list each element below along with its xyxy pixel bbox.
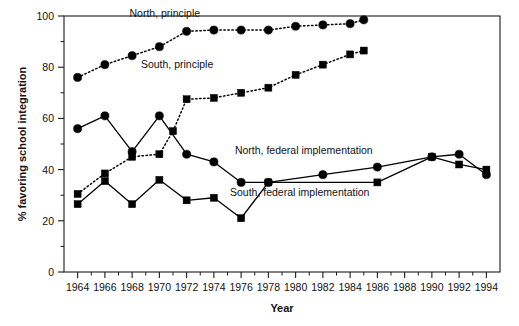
y-tick-label-100: 100 — [36, 10, 54, 22]
marker-south-federal-implementation — [428, 153, 435, 160]
series-label-north-principle: North, principle — [130, 7, 201, 19]
chart-container: 1964196619681970197219741976197819801982… — [0, 0, 519, 326]
marker-north-principle — [210, 26, 218, 34]
marker-north-principle — [292, 22, 300, 30]
series-label-south-federal-implementation: South, federal implementation — [230, 186, 370, 198]
x-tick-label-1968: 1968 — [120, 281, 144, 293]
marker-south-federal-implementation — [374, 179, 381, 186]
marker-north-principle — [74, 73, 82, 81]
y-tick-label-0: 0 — [48, 266, 54, 278]
marker-north-federal-implementation — [155, 112, 163, 120]
marker-south-principle — [265, 84, 272, 91]
marker-south-federal-implementation — [183, 197, 190, 204]
marker-north-principle — [360, 16, 368, 24]
series-label-north-federal-implementation: North, federal implementation — [235, 144, 373, 156]
marker-south-principle — [347, 51, 354, 58]
marker-south-principle — [360, 47, 367, 54]
y-tick-label-40: 40 — [42, 164, 54, 176]
x-tick-label-1964: 1964 — [66, 281, 90, 293]
series-label-south-principle: South, principle — [141, 58, 214, 70]
marker-south-principle — [319, 61, 326, 68]
x-tick-label-1970: 1970 — [148, 281, 172, 293]
marker-south-principle — [210, 94, 217, 101]
marker-south-principle — [156, 151, 163, 158]
x-tick-label-1988: 1988 — [393, 281, 417, 293]
marker-north-federal-implementation — [128, 148, 136, 156]
x-axis-title: Year — [270, 302, 294, 314]
marker-north-federal-implementation — [455, 150, 463, 158]
marker-north-principle — [101, 61, 109, 69]
y-tick-label-60: 60 — [42, 112, 54, 124]
marker-north-federal-implementation — [319, 171, 327, 179]
marker-south-federal-implementation — [265, 179, 272, 186]
marker-south-federal-implementation — [456, 161, 463, 168]
marker-north-principle — [346, 20, 354, 28]
marker-north-principle — [237, 26, 245, 34]
x-tick-label-1994: 1994 — [475, 281, 499, 293]
marker-south-principle — [292, 71, 299, 78]
marker-south-federal-implementation — [74, 201, 81, 208]
marker-north-principle — [264, 26, 272, 34]
marker-north-federal-implementation — [183, 150, 191, 158]
x-tick-label-1982: 1982 — [311, 281, 335, 293]
marker-north-federal-implementation — [237, 178, 245, 186]
marker-south-federal-implementation — [101, 178, 108, 185]
marker-south-principle — [238, 89, 245, 96]
x-tick-label-1986: 1986 — [366, 281, 390, 293]
y-tick-label-20: 20 — [42, 215, 54, 227]
marker-south-federal-implementation — [210, 194, 217, 201]
x-tick-label-1974: 1974 — [202, 281, 226, 293]
x-tick-label-1992: 1992 — [447, 281, 471, 293]
marker-south-federal-implementation — [156, 176, 163, 183]
marker-north-principle — [155, 43, 163, 51]
x-tick-label-1980: 1980 — [284, 281, 308, 293]
marker-south-federal-implementation — [483, 166, 490, 173]
x-tick-label-1990: 1990 — [420, 281, 444, 293]
marker-south-principle — [101, 170, 108, 177]
marker-north-federal-implementation — [101, 112, 109, 120]
marker-south-principle — [74, 190, 81, 197]
y-tick-label-80: 80 — [42, 61, 54, 73]
marker-north-federal-implementation — [373, 163, 381, 171]
marker-north-federal-implementation — [74, 125, 82, 133]
marker-north-principle — [319, 21, 327, 29]
school-integration-line-chart: 1964196619681970197219741976197819801982… — [0, 0, 519, 326]
marker-north-federal-implementation — [210, 158, 218, 166]
marker-south-federal-implementation — [238, 215, 245, 222]
marker-north-principle — [128, 52, 136, 60]
x-tick-label-1978: 1978 — [257, 281, 281, 293]
marker-south-federal-implementation — [129, 201, 136, 208]
marker-north-principle — [183, 27, 191, 35]
x-tick-label-1976: 1976 — [229, 281, 253, 293]
x-tick-label-1972: 1972 — [175, 281, 199, 293]
y-axis-title: % favoring school integration — [16, 66, 28, 221]
marker-south-principle — [170, 128, 177, 135]
marker-south-principle — [183, 96, 190, 103]
x-tick-label-1984: 1984 — [338, 281, 362, 293]
x-tick-label-1966: 1966 — [93, 281, 117, 293]
